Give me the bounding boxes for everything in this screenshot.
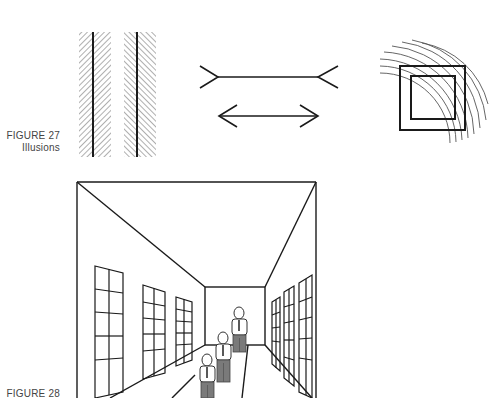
squares-arcs-illusion xyxy=(380,40,488,143)
corridor-illusion xyxy=(77,182,316,398)
left-windows xyxy=(95,266,192,398)
person-middle xyxy=(216,332,231,382)
right-windows xyxy=(272,275,312,398)
figures-canvas xyxy=(0,0,504,398)
person-far xyxy=(232,307,247,352)
person-near xyxy=(200,354,215,398)
zollner-illusion xyxy=(79,32,156,157)
muller-lyer-illusion xyxy=(200,66,338,127)
people xyxy=(200,307,247,398)
